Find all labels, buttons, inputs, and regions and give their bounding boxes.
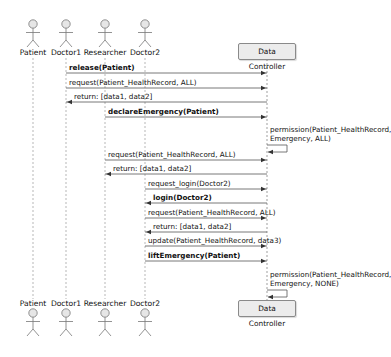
actor-label-bottom: Patient [20,299,46,308]
arrowhead-icon [268,295,273,299]
controller-box-bottom: Data Controller [238,300,296,317]
arrowhead-icon [261,86,266,90]
arrowhead-icon [261,259,266,263]
actor-label-top: Researcher [84,48,127,57]
self-message-label: Emergency, ALL) [270,134,331,143]
actor-label-bottom: Doctor1 [51,299,81,308]
arrowhead-icon [67,100,72,104]
self-message-arrow [267,145,287,152]
actor-figure-icon [59,20,73,47]
message-label: login(Doctor2) [153,193,212,202]
message-label: return: [data1, data2] [153,222,231,231]
self-message-label: permission(Patient_HealthRecord, [270,125,391,134]
arrowhead-icon [268,150,273,154]
actor-figure-icon [26,20,40,47]
actor-figure-icon [59,309,73,336]
arrowhead-icon [261,158,266,162]
message-label: return: [data1, data2] [74,92,152,101]
self-message-label: permission(Patient_HealthRecord, [270,270,391,279]
arrowhead-icon [146,230,151,234]
actor-figure-icon [138,20,152,47]
arrowhead-icon [106,172,111,176]
message-label: request_login(Doctor2) [148,179,231,188]
message-label: return: [data1, data2] [113,164,191,173]
message-label: request(Patient_HealthRecord, ALL) [69,78,196,87]
actor-label-top: Doctor2 [130,48,160,57]
actor-figure-icon [98,20,112,47]
message-label: declareEmergency(Patient) [108,107,219,116]
message-label: request(Patient_HealthRecord, ALL) [108,150,235,159]
actor-label-bottom: Doctor2 [130,299,160,308]
arrowhead-icon [261,115,266,119]
actor-label-top: Doctor1 [51,48,81,57]
arrowhead-icon [261,187,266,191]
message-label: liftEmergency(Patient) [148,251,240,260]
arrowhead-icon [146,201,151,205]
controller-box-top: Data Controller [238,43,296,60]
actor-label-bottom: Researcher [84,299,127,308]
message-label: release(Patient) [69,63,135,72]
actor-label-top: Patient [20,48,46,57]
actor-figure-icon [26,309,40,336]
self-message-arrow [267,290,287,297]
actor-figure-icon [138,309,152,336]
actor-figure-icon [98,309,112,336]
message-label: request(Patient_HealthRecord, ALL) [148,208,275,217]
message-label: update(Patient_HealthRecord, data3) [148,236,281,245]
self-message-label: Emergency, NONE) [270,279,339,288]
